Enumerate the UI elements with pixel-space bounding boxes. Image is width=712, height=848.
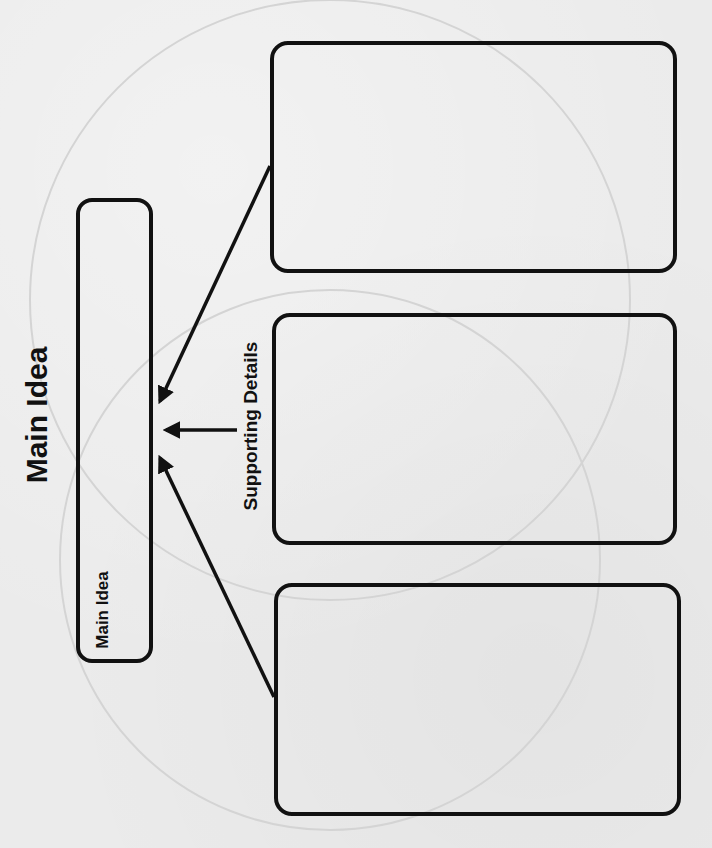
main-idea-box-label: Main Idea xyxy=(93,571,113,648)
supporting-detail-box-3[interactable] xyxy=(274,583,681,816)
supporting-detail-box-2[interactable] xyxy=(272,313,677,545)
diagram-title: Main Idea xyxy=(20,347,54,484)
main-idea-box[interactable] xyxy=(76,198,153,663)
supporting-detail-box-1[interactable] xyxy=(270,41,677,273)
supporting-details-label: Supporting Details xyxy=(240,342,262,511)
